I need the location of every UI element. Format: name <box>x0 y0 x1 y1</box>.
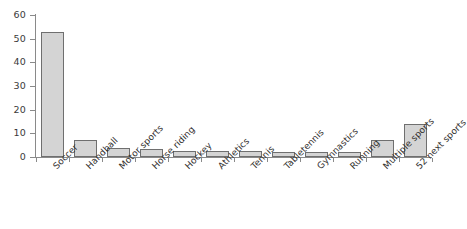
y-tick-label: 50 <box>4 33 26 44</box>
y-tick-label: 0 <box>4 151 26 162</box>
y-tick-mark <box>30 110 35 111</box>
y-tick-mark <box>30 86 35 87</box>
bars-container <box>36 15 432 157</box>
y-tick-mark <box>30 15 35 16</box>
y-tick-label: 20 <box>4 104 26 115</box>
y-tick-mark <box>30 157 35 158</box>
y-tick-mark <box>30 39 35 40</box>
y-tick-mark <box>30 133 35 134</box>
y-tick-label: 30 <box>4 80 26 91</box>
bar <box>41 32 65 157</box>
x-tick-mark <box>36 158 37 162</box>
y-tick-mark <box>30 62 35 63</box>
y-tick-label: 40 <box>4 56 26 67</box>
y-tick-label: 60 <box>4 9 26 20</box>
y-tick-label: 10 <box>4 127 26 138</box>
